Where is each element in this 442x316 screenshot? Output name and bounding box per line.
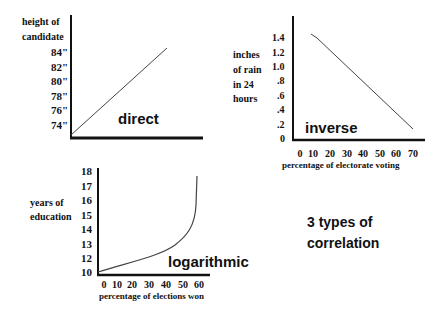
- direct-ytick: 78": [51, 90, 68, 102]
- log-ytick: 12: [81, 252, 93, 264]
- inverse-xtick: 50: [375, 148, 385, 159]
- logarithmic-chart: years of education 18 17 16 15 14 13 12 …: [30, 165, 249, 301]
- log-xtick: 30: [144, 279, 154, 290]
- direct-ytick: 82": [51, 61, 68, 73]
- inverse-ytick: .6: [277, 90, 285, 101]
- figure-title: 3 types of correlation: [307, 214, 379, 251]
- log-xtick: 50: [178, 279, 188, 290]
- inverse-xtick: 20: [325, 148, 335, 159]
- inverse-ytick: 1.2: [272, 47, 285, 58]
- log-xtick: 40: [161, 279, 171, 290]
- direct-ytick: 74": [51, 119, 68, 131]
- inverse-xlabel: percentage of electorate voting: [282, 160, 400, 170]
- inverse-line: [311, 34, 413, 129]
- inverse-ylabel-line3: in 24: [233, 79, 254, 90]
- log-xlabel: percentage of elections won: [99, 291, 204, 301]
- inverse-ytick: .8: [277, 75, 285, 86]
- title-line2: correlation: [307, 235, 379, 251]
- direct-label: direct: [118, 110, 159, 127]
- inverse-label: inverse: [305, 119, 358, 136]
- inverse-xtick: 30: [342, 148, 352, 159]
- log-ytick: 14: [81, 223, 93, 235]
- log-ytick: 16: [81, 194, 93, 206]
- log-ylabel-line2: education: [30, 211, 72, 222]
- inverse-xtick: 70: [408, 148, 418, 159]
- direct-ytick: 76": [51, 104, 68, 116]
- inverse-ytick: 1.0: [272, 61, 285, 72]
- inverse-ylabel-line4: hours: [233, 93, 258, 104]
- inverse-ytick: 0: [280, 133, 285, 144]
- inverse-ytick: 1.4: [272, 32, 285, 43]
- log-xtick: 20: [127, 279, 137, 290]
- inverse-xtick: 40: [358, 148, 368, 159]
- inverse-xtick: 10: [308, 148, 318, 159]
- inverse-chart: inches of rain in 24 hours 1.4 1.2 1.0 .…: [233, 16, 425, 170]
- inverse-ytick: .2: [277, 119, 285, 130]
- title-line1: 3 types of: [307, 214, 373, 230]
- direct-chart: height of candidate 84" 82" 80" 78" 76" …: [22, 15, 203, 139]
- log-xtick: 60: [194, 279, 204, 290]
- log-ytick: 13: [81, 238, 93, 250]
- logarithmic-label: logarithmic: [168, 253, 249, 270]
- inverse-ytick: .4: [277, 104, 285, 115]
- inverse-xtick: 0: [298, 148, 303, 159]
- direct-ytick: 80": [51, 75, 68, 87]
- log-ylabel-line1: years of: [30, 197, 64, 208]
- direct-ylabel-line1: height of: [22, 16, 60, 27]
- log-xtick: 10: [112, 279, 122, 290]
- log-ytick: 18: [81, 165, 93, 177]
- direct-ylabel-line2: candidate: [22, 31, 64, 42]
- log-ytick: 17: [81, 180, 93, 192]
- inverse-ylabel-line1: inches: [233, 49, 260, 60]
- log-xtick: 0: [102, 279, 107, 290]
- log-ytick: 15: [81, 209, 93, 221]
- inverse-xtick: 60: [391, 148, 401, 159]
- correlation-figure: height of candidate 84" 82" 80" 78" 76" …: [0, 0, 442, 316]
- inverse-ylabel-line2: of rain: [233, 64, 262, 75]
- direct-ytick: 84": [51, 46, 68, 58]
- log-ytick: 10: [81, 266, 93, 278]
